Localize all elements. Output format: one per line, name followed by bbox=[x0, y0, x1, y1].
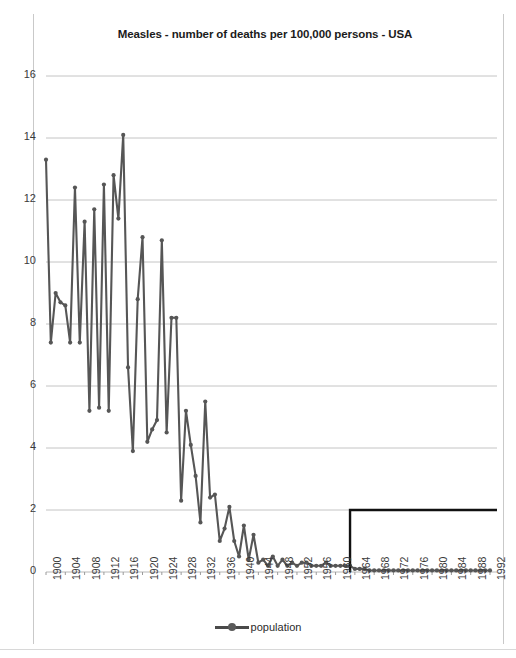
x-axis-tick-1916: 1916 bbox=[128, 557, 140, 580]
x-axis-tick-1900: 1900 bbox=[51, 557, 63, 580]
x-axis-tick-1972: 1972 bbox=[398, 557, 410, 580]
gridlines bbox=[46, 76, 497, 572]
y-axis-tick-4: 4 bbox=[10, 440, 36, 452]
x-axis-tick-1960: 1960 bbox=[341, 557, 353, 580]
x-axis-tick-1964: 1964 bbox=[360, 557, 372, 580]
chart-page: Measles - number of deaths per 100,000 p… bbox=[0, 0, 516, 658]
x-axis-tick-1984: 1984 bbox=[456, 557, 468, 580]
x-axis-tick-1940: 1940 bbox=[244, 557, 256, 580]
y-axis-tick-8: 8 bbox=[10, 316, 36, 328]
y-axis-tick-2: 2 bbox=[10, 502, 36, 514]
legend-swatch-population bbox=[215, 622, 249, 632]
chart-legend: population bbox=[0, 620, 516, 633]
x-axis-tick-1988: 1988 bbox=[476, 557, 488, 580]
x-axis-tick-1928: 1928 bbox=[186, 557, 198, 580]
x-axis-tick-1920: 1920 bbox=[148, 557, 160, 580]
y-axis-tick-10: 10 bbox=[10, 254, 36, 266]
x-axis-tick-1904: 1904 bbox=[70, 557, 82, 580]
y-axis-tick-0: 0 bbox=[10, 564, 36, 576]
x-axis-tick-1952: 1952 bbox=[302, 557, 314, 580]
y-axis-tick-6: 6 bbox=[10, 378, 36, 390]
x-axis-tick-1912: 1912 bbox=[109, 557, 121, 580]
legend-marker-icon bbox=[228, 623, 236, 631]
x-axis-tick-1976: 1976 bbox=[418, 557, 430, 580]
x-axis-tick-1936: 1936 bbox=[225, 557, 237, 580]
legend-label-population: population bbox=[251, 621, 302, 633]
y-axis-tick-12: 12 bbox=[10, 192, 36, 204]
x-axis-tick-1992: 1992 bbox=[495, 557, 507, 580]
x-axis-tick-1968: 1968 bbox=[379, 557, 391, 580]
x-axis-tick-1980: 1980 bbox=[437, 557, 449, 580]
x-axis-tick-1956: 1956 bbox=[321, 557, 333, 580]
x-axis-tick-1932: 1932 bbox=[205, 557, 217, 580]
y-axis-tick-14: 14 bbox=[10, 130, 36, 142]
x-axis-tick-1948: 1948 bbox=[283, 557, 295, 580]
x-axis-tick-1908: 1908 bbox=[90, 557, 102, 580]
series-population bbox=[44, 133, 492, 573]
x-axis-tick-1944: 1944 bbox=[263, 557, 275, 580]
x-axis-tick-1924: 1924 bbox=[167, 557, 179, 580]
y-axis-tick-16: 16 bbox=[10, 68, 36, 80]
